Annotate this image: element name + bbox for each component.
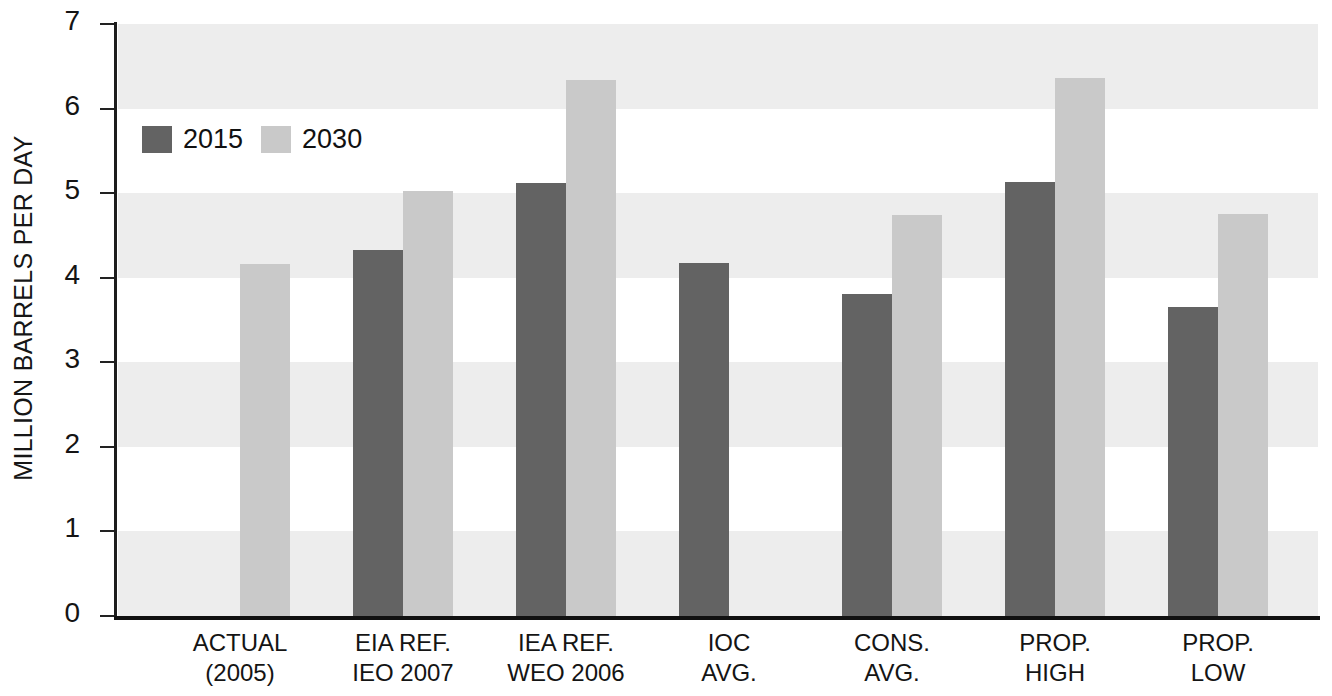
plot-area	[118, 24, 1318, 616]
bar-2030-group-4	[892, 215, 942, 616]
legend: 2015 2030	[142, 126, 362, 153]
x-axis-line	[114, 616, 1320, 620]
y-axis-tick-label: 0	[40, 597, 80, 629]
y-axis-tick-label: 4	[40, 259, 80, 291]
y-axis-tick-mark	[100, 530, 114, 532]
legend-label-2030: 2030	[302, 126, 362, 153]
y-axis-tick-mark	[100, 615, 114, 617]
legend-item-2030: 2030	[261, 126, 362, 153]
background-band	[118, 24, 1318, 109]
bar-2030-group-5	[1055, 78, 1105, 616]
bar-chart: MILLION BARRELS PER DAY 76543210 2015 20…	[0, 0, 1332, 696]
bar-2015-group-4	[842, 294, 892, 616]
y-axis-tick-label: 7	[40, 5, 80, 37]
bar-2030-group-2	[566, 80, 616, 616]
y-axis-tick-mark	[100, 108, 114, 110]
bar-2015-group-5	[1005, 182, 1055, 616]
x-axis-label-6: PROP. LOW	[1128, 628, 1308, 688]
y-axis-tick-mark	[100, 23, 114, 25]
legend-item-2015: 2015	[142, 126, 243, 153]
y-axis-tick-mark	[100, 277, 114, 279]
x-axis-label-1: EIA REF. IEO 2007	[313, 628, 493, 688]
x-axis-label-2: IEA REF. WEO 2006	[476, 628, 656, 688]
bar-2015-group-6	[1168, 307, 1218, 616]
y-axis-tick-label: 5	[40, 174, 80, 206]
y-axis-tick-label: 6	[40, 90, 80, 122]
legend-label-2015: 2015	[183, 126, 243, 153]
bar-2015-group-2	[516, 183, 566, 616]
x-axis-category-labels: ACTUAL (2005)EIA REF. IEO 2007IEA REF. W…	[118, 628, 1318, 696]
x-axis-label-5: PROP. HIGH	[965, 628, 1145, 688]
bar-2030-group-1	[403, 191, 453, 616]
y-axis-tick-label: 2	[40, 428, 80, 460]
bar-2015-group-3	[679, 263, 729, 617]
bar-2030-group-0	[240, 264, 290, 616]
y-axis-tick-mark	[100, 361, 114, 363]
x-axis-label-4: CONS. AVG.	[802, 628, 982, 688]
bar-2015-group-1	[353, 250, 403, 616]
y-axis-tick-mark	[100, 192, 114, 194]
legend-swatch-icon-2015	[142, 126, 172, 153]
x-axis-label-3: IOC AVG.	[639, 628, 819, 688]
y-axis-tick-label: 1	[40, 512, 80, 544]
x-axis-label-0: ACTUAL (2005)	[150, 628, 330, 688]
y-axis-tick-mark	[100, 446, 114, 448]
y-axis-tick-label: 3	[40, 343, 80, 375]
legend-swatch-icon-2030	[261, 126, 291, 153]
y-axis-line	[114, 22, 117, 618]
bar-2030-group-6	[1218, 214, 1268, 616]
